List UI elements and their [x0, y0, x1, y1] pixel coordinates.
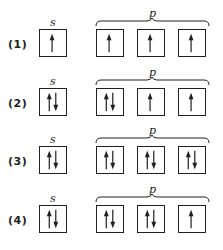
spin-up-arrow-icon — [47, 210, 52, 229]
p-brace-icon — [95, 135, 211, 145]
spin-down-arrow-icon — [192, 151, 197, 170]
s-sublevel-label: s — [50, 76, 56, 87]
spin-up-arrow-icon — [47, 93, 52, 112]
p-orbital-box-2 — [137, 88, 165, 116]
s-orbital-box — [39, 88, 67, 116]
spin-down-arrow-icon — [110, 210, 115, 229]
p-orbital-box-1 — [96, 88, 124, 116]
row-label: (3) — [8, 155, 27, 168]
s-sublevel-label: s — [50, 134, 56, 145]
spin-up-arrow-icon — [189, 93, 194, 112]
p-orbital-box-3 — [178, 205, 206, 233]
spin-up-arrow-icon — [107, 34, 112, 53]
spin-up-arrow-icon — [189, 34, 194, 53]
p-orbital-box-2 — [137, 205, 165, 233]
row-label: (2) — [8, 97, 27, 110]
spin-down-arrow-icon — [110, 93, 115, 112]
p-orbital-box-2 — [137, 29, 165, 57]
s-orbital-box — [39, 205, 67, 233]
s-orbital-box — [39, 146, 67, 174]
spin-up-arrow-icon — [186, 151, 191, 170]
spin-up-arrow-icon — [145, 151, 150, 170]
configuration-row: (1)sp — [0, 7, 223, 67]
row-label: (1) — [8, 38, 27, 51]
spin-up-arrow-icon — [104, 151, 109, 170]
spin-up-arrow-icon — [189, 210, 194, 229]
p-orbital-box-3 — [178, 29, 206, 57]
spin-up-arrow-icon — [104, 93, 109, 112]
row-label: (4) — [8, 214, 27, 227]
p-orbital-box-1 — [96, 146, 124, 174]
spin-down-arrow-icon — [110, 151, 115, 170]
p-brace-icon — [95, 194, 211, 204]
spin-down-arrow-icon — [53, 210, 58, 229]
configuration-row: (4)sp — [0, 183, 223, 243]
spin-down-arrow-icon — [151, 151, 156, 170]
spin-down-arrow-icon — [151, 210, 156, 229]
s-orbital-box — [39, 29, 67, 57]
p-orbital-box-1 — [96, 205, 124, 233]
p-orbital-box-3 — [178, 146, 206, 174]
s-sublevel-label: s — [50, 17, 56, 28]
s-sublevel-label: s — [50, 193, 56, 204]
configuration-row: (2)sp — [0, 66, 223, 126]
spin-up-arrow-icon — [148, 34, 153, 53]
spin-up-arrow-icon — [145, 210, 150, 229]
spin-up-arrow-icon — [47, 151, 52, 170]
p-orbital-box-2 — [137, 146, 165, 174]
spin-up-arrow-icon — [104, 210, 109, 229]
p-orbital-box-1 — [96, 29, 124, 57]
spin-down-arrow-icon — [53, 93, 58, 112]
p-brace-icon — [95, 18, 211, 28]
p-orbital-box-3 — [178, 88, 206, 116]
spin-up-arrow-icon — [50, 34, 55, 53]
p-brace-icon — [95, 77, 211, 87]
spin-down-arrow-icon — [53, 151, 58, 170]
spin-up-arrow-icon — [148, 93, 153, 112]
configuration-row: (3)sp — [0, 124, 223, 184]
